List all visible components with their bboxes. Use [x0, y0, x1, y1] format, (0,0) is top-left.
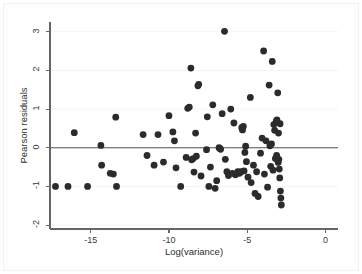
- scatter-point: [198, 173, 205, 180]
- scatter-point: [231, 120, 238, 127]
- scatter-point: [177, 183, 184, 190]
- scatter-point: [98, 162, 105, 169]
- scatter-point: [217, 146, 224, 153]
- scatter-point: [247, 94, 254, 101]
- scatter-point: [65, 183, 72, 190]
- scatter-point: [97, 142, 104, 149]
- scatter-point: [253, 168, 260, 175]
- scatter-point: [219, 110, 226, 117]
- scatter-point: [276, 166, 283, 173]
- scatter-point: [171, 137, 178, 144]
- scatter-point: [204, 113, 211, 120]
- scatter-point: [278, 202, 285, 209]
- scatter-point: [187, 65, 194, 72]
- scatter-point: [112, 114, 119, 121]
- scatter-point: [241, 168, 248, 175]
- y-tick-label: -1: [31, 177, 41, 193]
- axes: [50, 22, 338, 229]
- scatter-point: [71, 129, 78, 136]
- x-tick-label: -5: [232, 235, 262, 245]
- scatter-point: [257, 150, 264, 157]
- scatter-point: [222, 156, 229, 163]
- scatter-point: [195, 81, 202, 88]
- gridlines: [50, 32, 338, 225]
- scatter-point: [160, 159, 167, 166]
- scatter-point: [166, 112, 173, 119]
- scatter-point: [207, 164, 214, 171]
- scatter-point: [227, 106, 234, 113]
- y-tick-label: 1: [31, 100, 41, 116]
- y-tick-label: 0: [31, 139, 41, 155]
- scatter-point: [110, 171, 117, 178]
- scatter-point: [155, 131, 162, 138]
- scatter-point: [241, 149, 248, 156]
- scatter-point: [242, 143, 249, 150]
- scatter-point: [275, 130, 282, 137]
- y-tick-label: -2: [31, 216, 41, 232]
- plot-canvas: [8, 8, 354, 266]
- scatter-point: [221, 28, 228, 35]
- scatter-point: [212, 185, 219, 192]
- scatter-point: [277, 120, 284, 127]
- scatter-point: [266, 82, 273, 89]
- scatter-point: [140, 131, 147, 138]
- scatter-point: [261, 171, 268, 178]
- scatter-point: [205, 183, 212, 190]
- scatter-point: [84, 183, 91, 190]
- scatter-point: [277, 188, 284, 195]
- scatter-point: [270, 167, 277, 174]
- scatter-point: [203, 146, 210, 153]
- scatter-point: [275, 159, 282, 166]
- scatter-point: [209, 101, 216, 108]
- y-tick-label: 2: [31, 61, 41, 77]
- scatter-point: [173, 164, 180, 171]
- scatter-point: [243, 158, 250, 165]
- x-axis-title: Log(variance): [50, 246, 338, 257]
- scatter-point: [260, 48, 267, 55]
- scatter-point: [169, 128, 176, 135]
- scatter-point: [268, 140, 275, 147]
- scatter-point: [52, 183, 59, 190]
- scatter-points: [52, 28, 285, 209]
- scatter-point: [274, 89, 281, 96]
- scatter-point: [277, 195, 284, 202]
- x-tick-label: -10: [154, 235, 184, 245]
- plot-graph: Pearson residuals -2-10123-15-10-50 Log(…: [8, 8, 354, 266]
- scatter-point: [248, 179, 255, 186]
- scatter-point: [191, 169, 198, 176]
- scatter-point: [151, 162, 158, 169]
- scatter-point: [113, 183, 120, 190]
- scatter-point: [213, 177, 220, 184]
- scatter-point: [144, 152, 151, 159]
- scatter-point: [193, 153, 200, 160]
- scatter-point: [186, 104, 193, 111]
- scatter-point: [276, 175, 283, 182]
- scatter-point: [255, 193, 262, 200]
- scatter-point: [240, 123, 247, 130]
- scatter-point: [192, 130, 199, 137]
- scatter-point: [269, 58, 276, 65]
- scatter-point: [264, 184, 271, 191]
- x-tick-label: 0: [310, 235, 340, 245]
- scatter-point: [273, 152, 280, 159]
- x-tick-label: -15: [76, 235, 106, 245]
- chart-figure: Pearson residuals -2-10123-15-10-50 Log(…: [0, 0, 362, 274]
- y-tick-label: 3: [31, 23, 41, 39]
- scatter-point: [250, 162, 257, 169]
